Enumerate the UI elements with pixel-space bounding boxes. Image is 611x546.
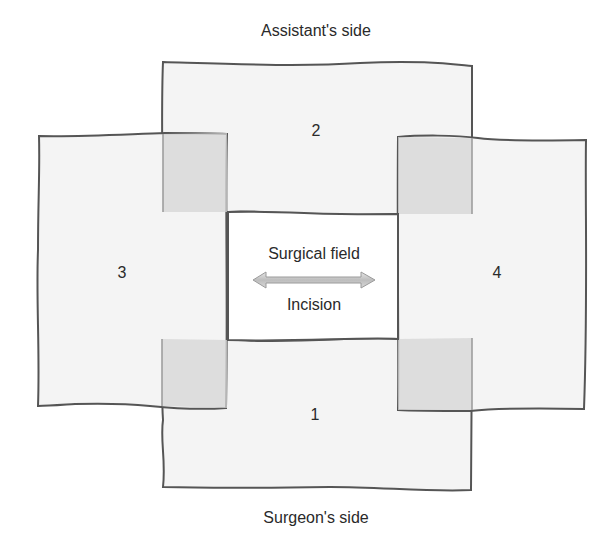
towel-1-number: 1 xyxy=(311,406,320,424)
towel-3-number: 3 xyxy=(118,264,127,282)
incision-label: Incision xyxy=(287,296,341,314)
towel-2-number: 2 xyxy=(312,122,321,140)
overlap-top-left xyxy=(163,133,227,212)
assistant-side-label: Assistant's side xyxy=(261,22,371,40)
surgical-field-label: Surgical field xyxy=(268,245,360,263)
towel-4-number: 4 xyxy=(493,264,502,282)
overlap-bottom-right xyxy=(398,338,472,410)
overlap-bottom-left xyxy=(162,339,227,408)
field-outline xyxy=(228,212,398,341)
surgeon-side-label: Surgeon's side xyxy=(263,509,368,527)
surgical-draping-diagram xyxy=(0,0,611,546)
overlap-top-right xyxy=(398,137,472,214)
